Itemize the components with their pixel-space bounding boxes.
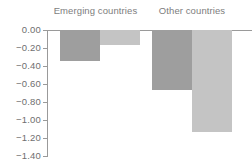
group-label-other-countries: Other countries	[148, 5, 236, 16]
bar-chart: Emerging countries Other countries 0.00−…	[0, 0, 252, 164]
y-tick-label: −0.60	[0, 78, 41, 89]
y-tick-label: −1.00	[0, 114, 41, 125]
y-tick-label: 0.00	[0, 24, 41, 35]
plot-area	[47, 30, 252, 156]
bar	[100, 30, 140, 45]
group-label-emerging-countries: Emerging countries	[48, 5, 143, 16]
y-axis-tick-labels: 0.00−0.20−0.40−0.60−0.80−1.00−1.20−1.40	[0, 0, 41, 164]
y-tick-label: −0.80	[0, 96, 41, 107]
bar	[192, 30, 232, 132]
y-tick-mark	[43, 156, 48, 157]
y-tick-label: −1.20	[0, 132, 41, 143]
bar	[152, 30, 192, 90]
y-tick-label: −1.40	[0, 150, 41, 161]
y-tick-label: −0.20	[0, 42, 41, 53]
y-tick-label: −0.40	[0, 60, 41, 71]
bar	[60, 30, 100, 61]
